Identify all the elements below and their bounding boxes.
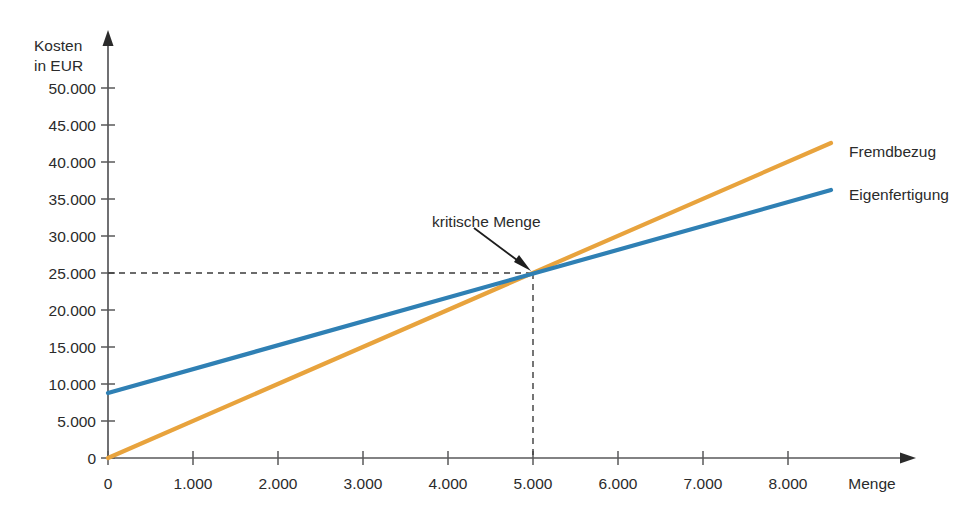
x-tick-label-3000: 3.000 [344, 475, 383, 492]
axes-group [103, 30, 917, 464]
x-axis-tick-labels: 0 1.000 2.000 3.000 4.000 5.000 6.000 7.… [104, 475, 808, 492]
break-even-chart: 0 5.000 10.000 15.000 20.000 25.000 30.0… [0, 0, 978, 518]
y-axis-title-line1: Kosten [34, 37, 82, 54]
x-tick-label-5000: 5.000 [514, 475, 553, 492]
y-tick-label-0: 0 [87, 450, 96, 467]
y-axis-tick-labels: 0 5.000 10.000 15.000 20.000 25.000 30.0… [49, 80, 97, 467]
y-tick-label-35000: 35.000 [49, 191, 97, 208]
chart-container: 0 5.000 10.000 15.000 20.000 25.000 30.0… [0, 0, 978, 518]
x-tick-label-4000: 4.000 [429, 475, 468, 492]
y-tick-label-10000: 10.000 [49, 376, 97, 393]
series-group [108, 143, 831, 458]
legend-label-fremdbezug: Fremdbezug [849, 143, 936, 160]
y-tick-label-50000: 50.000 [49, 80, 97, 97]
x-tick-label-6000: 6.000 [599, 475, 638, 492]
annotation-arrowhead [514, 255, 531, 271]
critical-quantity-label: kritische Menge [432, 213, 541, 230]
y-tick-label-20000: 20.000 [49, 302, 97, 319]
x-tick-label-7000: 7.000 [684, 475, 723, 492]
legend: Fremdbezug Eigenfertigung [849, 143, 949, 203]
x-tick-label-1000: 1.000 [174, 475, 213, 492]
y-tick-label-5000: 5.000 [57, 413, 96, 430]
annotation-arrow-shaft [474, 228, 521, 263]
x-tick-label-0: 0 [104, 475, 113, 492]
y-tick-label-30000: 30.000 [49, 228, 97, 245]
x-tick-label-2000: 2.000 [259, 475, 298, 492]
x-axis-title: Menge [848, 475, 895, 492]
y-tick-label-15000: 15.000 [49, 339, 97, 356]
y-tick-label-45000: 45.000 [49, 117, 97, 134]
y-tick-label-25000: 25.000 [49, 265, 97, 282]
series-line-fremdbezug [108, 143, 831, 458]
y-tick-label-40000: 40.000 [49, 154, 97, 171]
critical-quantity-annotation: kritische Menge [432, 213, 541, 271]
x-tick-label-8000: 8.000 [769, 475, 808, 492]
legend-label-eigenfertigung: Eigenfertigung [849, 186, 949, 203]
y-axis-arrowhead [103, 30, 114, 46]
y-axis-title-line2: in EUR [34, 57, 83, 74]
x-axis-arrowhead [900, 453, 916, 464]
